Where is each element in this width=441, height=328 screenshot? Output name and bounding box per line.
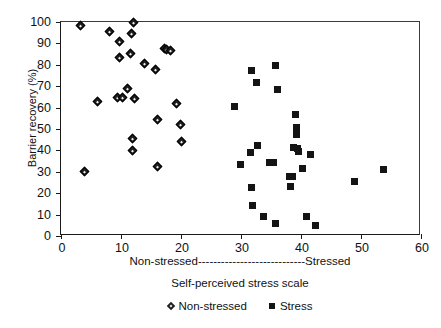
x-axis-title: Self-perceived stress scale: [60, 277, 420, 289]
square-marker-icon: [253, 79, 260, 86]
square-marker-icon: [293, 124, 300, 131]
y-axis-tick-label: 90: [17, 36, 51, 50]
legend-item-stress[interactable]: Stress: [269, 300, 313, 312]
square-marker-icon: [380, 166, 387, 173]
y-axis-tick-label: 60: [17, 101, 51, 115]
square-marker-icon: [295, 148, 302, 155]
x-axis-tick: 10: [121, 234, 122, 239]
square-marker-icon: [231, 103, 238, 110]
legend-label-stress: Stress: [280, 300, 313, 312]
diamond-marker-icon: [127, 145, 137, 155]
square-marker-icon: [293, 131, 300, 138]
x-axis-tick: 20: [181, 234, 182, 239]
x-axis-tick-label: 10: [102, 241, 142, 255]
diamond-marker-icon: [128, 17, 138, 27]
diamond-marker-icon: [153, 162, 163, 172]
square-marker-icon: [248, 184, 255, 191]
y-axis-title: Barrier recovery (%): [26, 28, 38, 208]
diamond-marker-icon: [127, 28, 137, 38]
diamond-marker-icon: [175, 119, 185, 129]
square-marker-icon: [260, 213, 267, 220]
square-marker-icon: [254, 142, 261, 149]
x-axis-tick-label: 0: [42, 241, 82, 255]
x-axis-tick: 50: [361, 234, 362, 239]
stress-scale-band-label: Non-stressed----------------------------…: [60, 255, 420, 267]
y-axis-tick-label: 40: [17, 143, 51, 157]
diamond-marker-icon: [114, 37, 124, 47]
diamond-marker-icon: [126, 49, 136, 59]
x-axis-tick-label: 20: [162, 241, 202, 255]
square-marker-icon: [247, 149, 254, 156]
x-axis-tick: 30: [241, 234, 242, 239]
scatter-chart-figure: Barrier recovery (%) 0102030405060708090…: [0, 0, 441, 328]
diamond-marker-icon: [152, 115, 162, 125]
square-marker-icon: [287, 183, 294, 190]
square-marker-icon: [272, 62, 279, 69]
square-marker-icon: [249, 202, 256, 209]
data-points-layer: [61, 22, 419, 234]
square-marker-icon: [289, 173, 296, 180]
legend-label-non-stressed: Non-stressed: [179, 300, 247, 312]
diamond-marker-icon: [130, 94, 140, 104]
diamond-marker-icon: [165, 46, 175, 56]
y-axis-tick-label: 30: [17, 165, 51, 179]
y-axis-tick-label: 50: [17, 122, 51, 136]
diamond-marker-icon: [151, 64, 161, 74]
diamond-marker-icon: [166, 302, 174, 310]
square-marker-icon: [274, 86, 281, 93]
y-axis-tick-label: 80: [17, 58, 51, 72]
y-axis-tick-label: 20: [17, 186, 51, 200]
x-axis-tick-label: 60: [402, 241, 441, 255]
diamond-marker-icon: [79, 166, 89, 176]
square-marker-icon: [269, 303, 275, 309]
square-marker-icon: [237, 161, 244, 168]
x-axis-tick: 40: [301, 234, 302, 239]
chart-legend: Non-stressed Stress: [60, 300, 420, 312]
legend-item-non-stressed[interactable]: Non-stressed: [168, 300, 247, 312]
y-axis-tick-label: 70: [17, 79, 51, 93]
square-marker-icon: [270, 159, 277, 166]
diamond-marker-icon: [93, 97, 103, 107]
diamond-marker-icon: [171, 99, 181, 109]
square-marker-icon: [299, 165, 306, 172]
x-axis-tick: 0: [61, 234, 62, 239]
square-marker-icon: [292, 111, 299, 118]
diamond-marker-icon: [127, 133, 137, 143]
square-marker-icon: [303, 213, 310, 220]
diamond-marker-icon: [105, 27, 115, 37]
x-axis-tick-label: 40: [282, 241, 322, 255]
square-marker-icon: [248, 67, 255, 74]
x-axis-tick-label: 30: [222, 241, 262, 255]
diamond-marker-icon: [177, 137, 187, 147]
diamond-marker-icon: [115, 53, 125, 63]
diamond-marker-icon: [139, 58, 149, 68]
diamond-marker-icon: [75, 20, 85, 30]
square-marker-icon: [272, 220, 279, 227]
y-axis-tick-label: 10: [17, 208, 51, 222]
plot-area: 0102030405060708090100 0102030405060: [60, 21, 420, 235]
diamond-marker-icon: [122, 83, 132, 93]
square-marker-icon: [312, 222, 319, 229]
x-axis-tick-label: 50: [342, 241, 382, 255]
square-marker-icon: [351, 178, 358, 185]
x-axis-tick: 60: [421, 234, 422, 239]
square-marker-icon: [307, 151, 314, 158]
y-axis-tick-label: 100: [17, 15, 51, 29]
diamond-marker-icon: [118, 93, 128, 103]
